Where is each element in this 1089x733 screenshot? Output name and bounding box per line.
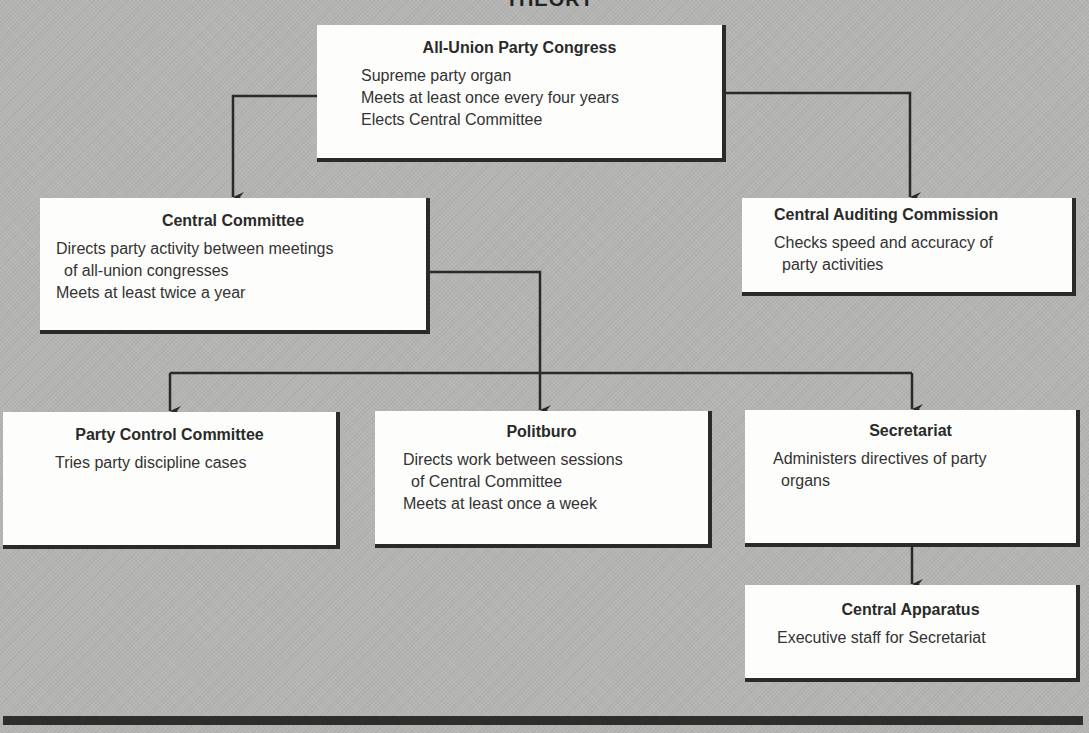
node-line: Tries party discipline cases [55, 452, 336, 474]
node-title: Party Control Committee [3, 426, 336, 444]
node-party-control-committee: Party Control Committee Tries party disc… [3, 412, 340, 549]
node-politburo: Politburo Directs work between sessions … [375, 411, 712, 548]
node-line: of all-union congresses [56, 260, 426, 282]
node-title: Central Auditing Commission [742, 206, 1072, 224]
node-central-committee: Central Committee Directs party activity… [40, 198, 430, 334]
node-central-auditing-commission: Central Auditing Commission Checks speed… [742, 198, 1076, 296]
node-line: organs [773, 470, 1076, 492]
node-line: Meets at least once every four years [361, 87, 722, 109]
node-line: Administers directives of party [773, 448, 1076, 470]
node-title: Secretariat [745, 422, 1076, 440]
arrow-congress-to-central-committee [233, 96, 317, 197]
node-title: Central Apparatus [745, 601, 1076, 619]
node-line: Elects Central Committee [361, 109, 722, 131]
bottom-rule [3, 716, 1083, 725]
arrow-congress-to-auditing [724, 93, 910, 197]
node-line: Executive staff for Secretariat [777, 627, 1076, 649]
node-line: Directs work between sessions [403, 449, 708, 471]
node-title: Politburo [375, 423, 708, 441]
node-line: of Central Committee [403, 471, 708, 493]
node-line: party activities [774, 254, 1072, 276]
arrow-central-committee-to-politburo [428, 272, 540, 410]
node-line: Supreme party organ [361, 65, 722, 87]
node-title: Central Committee [40, 212, 426, 230]
node-line: Checks speed and accuracy of [774, 232, 1072, 254]
node-title: All-Union Party Congress [317, 39, 722, 57]
node-line: Meets at least twice a year [56, 282, 426, 304]
node-line: Meets at least once a week [403, 493, 708, 515]
node-line: Directs party activity between meetings [56, 238, 426, 260]
node-central-apparatus: Central Apparatus Executive staff for Se… [745, 585, 1080, 682]
node-secretariat: Secretariat Administers directives of pa… [745, 410, 1080, 547]
node-all-union-party-congress: All-Union Party Congress Supreme party o… [317, 25, 726, 162]
